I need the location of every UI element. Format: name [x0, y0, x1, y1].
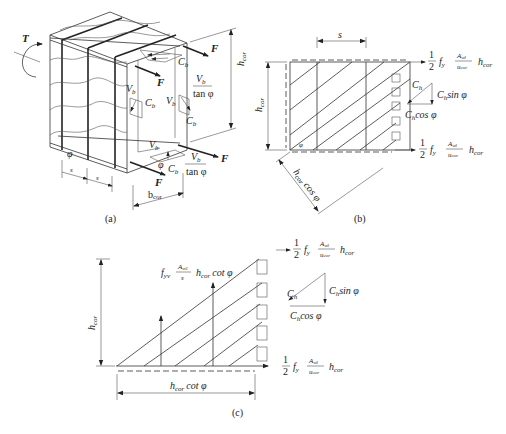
svg-text:Cb: Cb — [145, 97, 156, 110]
dimensions-b: s hcor hcor cos φ — [253, 29, 383, 214]
svg-text:Ch: Ch — [287, 288, 298, 301]
svg-text:Astl: Astl — [456, 52, 467, 60]
force-label-top-left: F — [156, 76, 165, 88]
panel-b-truss-panel: φ — [286, 60, 410, 152]
force-label-bottom-right: F — [220, 152, 229, 164]
svg-text:hcor: hcor — [86, 315, 99, 330]
svg-text:fy: fy — [293, 361, 300, 374]
svg-text:fy: fy — [304, 244, 311, 257]
caption-b: (b) — [354, 213, 366, 225]
svg-text:Vb: Vb — [126, 83, 136, 96]
svg-text:Astl: Astl — [447, 140, 458, 148]
svg-text:Vb: Vb — [196, 73, 206, 86]
svg-text:fyv: fyv — [161, 267, 171, 280]
caption-c: (c) — [232, 407, 243, 419]
svg-text:Cb: Cb — [186, 115, 197, 128]
svg-text:Chsin φ: Chsin φ — [437, 89, 467, 102]
force-label-c-top: 1 2 fy Astl ucor hcor — [276, 237, 355, 260]
svg-text:ucor: ucor — [320, 251, 330, 259]
svg-text:s: s — [338, 29, 342, 40]
svg-text:Astl: Astl — [308, 357, 319, 365]
h-cor-dimension-a: hcor — [190, 28, 248, 142]
svg-text:Cb: Cb — [168, 163, 179, 176]
force-label-b-bottom: 1 2 fy Astl ucor hcor — [395, 137, 484, 160]
torque-label: T — [22, 32, 30, 44]
svg-text:Chcos φ: Chcos φ — [290, 310, 322, 323]
svg-text:hcor: hcor — [340, 244, 355, 257]
svg-text:hcor cos φ: hcor cos φ — [290, 166, 324, 204]
svg-text:2: 2 — [283, 366, 288, 377]
svg-text:Vb: Vb — [166, 95, 176, 108]
svg-text:hcor: hcor — [235, 51, 248, 66]
force-label-b-top: 1 2 fy Astl ucor hcor — [410, 49, 493, 72]
angle-label-a: φ — [67, 148, 73, 159]
svg-text:1: 1 — [420, 137, 425, 148]
svg-text:φ: φ — [299, 141, 303, 149]
force-triangle-c: Ch Chsin φ Chcos φ — [287, 273, 359, 323]
svg-text:ucor: ucor — [448, 151, 458, 159]
force-label-bottom-left: F — [154, 176, 163, 188]
svg-text:1: 1 — [429, 49, 434, 60]
svg-text:ucor: ucor — [457, 63, 467, 71]
svg-text:hcor: hcor — [329, 361, 344, 374]
panel-c-side-view — [116, 259, 268, 371]
svg-text:s: s — [96, 174, 99, 182]
svg-text:φ: φ — [158, 159, 164, 170]
svg-text:Vb: Vb — [149, 139, 159, 152]
dimensions-c: hcor hcorcot φ — [86, 259, 255, 400]
stirrup-force-label-c: fyv Ast1 s hcorcot φ — [161, 263, 233, 282]
svg-text:1: 1 — [294, 237, 299, 248]
stirrup-force-labels-a: Cb Vb tan φ Vb Cb Vb Cb Vb φ Cb Vb tan φ — [126, 50, 214, 177]
svg-text:ucor: ucor — [309, 368, 319, 376]
torsion-truss-figure: T F F F F hcor Cb Vb tan φ Vb Cb Vb — [0, 0, 506, 434]
svg-text:s: s — [181, 274, 184, 282]
force-triangle-b: Ch Chsin φ Chcos φ — [405, 79, 467, 122]
svg-text:2: 2 — [429, 61, 434, 72]
svg-text:Chsin φ: Chsin φ — [329, 285, 359, 298]
force-label-top-right: F — [210, 42, 219, 54]
svg-text:Ast1: Ast1 — [177, 263, 188, 271]
svg-text:s: s — [70, 166, 73, 174]
svg-text:tan φ: tan φ — [193, 88, 214, 99]
svg-text:bcor: bcor — [148, 189, 163, 201]
svg-text:Ch: Ch — [412, 79, 423, 92]
svg-text:hcor: hcor — [478, 56, 493, 69]
svg-text:hcor: hcor — [253, 97, 266, 112]
svg-text:hcor: hcor — [469, 144, 484, 157]
torque-arrow: T — [14, 32, 42, 77]
svg-text:fy: fy — [430, 144, 437, 157]
svg-text:hcorcot φ: hcorcot φ — [196, 267, 233, 280]
force-label-c-bottom: 1 2 fy Astl ucor hcor — [282, 354, 344, 377]
svg-text:tan φ: tan φ — [186, 166, 207, 177]
svg-text:1: 1 — [283, 354, 288, 365]
svg-text:hcorcot φ: hcorcot φ — [170, 380, 207, 393]
svg-text:2: 2 — [420, 149, 425, 160]
svg-text:fy: fy — [439, 56, 446, 69]
svg-text:Astl: Astl — [319, 240, 330, 248]
caption-a: (a) — [105, 213, 116, 225]
svg-text:Vb: Vb — [191, 151, 201, 164]
svg-text:2: 2 — [294, 249, 299, 260]
